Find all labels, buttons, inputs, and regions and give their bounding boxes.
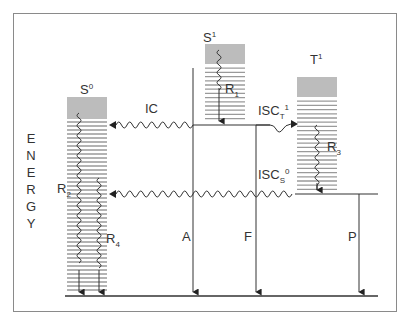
s0-levels xyxy=(67,98,107,290)
label-A: A xyxy=(182,230,191,243)
energy-axis-label: E N E R G Y xyxy=(24,130,38,232)
label-R4: R4 xyxy=(106,232,120,251)
label-F: F xyxy=(244,230,252,243)
energy-letter: E xyxy=(24,164,38,181)
state-label-S1: S1 xyxy=(203,28,216,44)
state-label-S0: S0 xyxy=(80,80,93,96)
label-P: P xyxy=(348,230,357,243)
label-R1: R1 xyxy=(225,82,239,101)
internal-conversion-IC-wave xyxy=(116,122,193,128)
energy-letter: G xyxy=(24,198,38,215)
isc-S-wave xyxy=(116,191,292,197)
label-ISC-T: ISCT1 xyxy=(258,101,289,123)
isc-T-wave xyxy=(256,124,291,132)
label-R2: R2 xyxy=(57,182,71,201)
energy-letter: R xyxy=(24,181,38,198)
energy-letter: N xyxy=(24,147,38,164)
jablonski-diagram xyxy=(0,0,409,323)
isc-S-arrowhead xyxy=(109,190,116,198)
energy-letter: Y xyxy=(24,215,38,232)
label-R3: R3 xyxy=(327,140,341,159)
relaxation-R1-wave xyxy=(217,50,221,90)
t1-levels xyxy=(297,78,337,189)
isc-T-arrowhead xyxy=(291,120,298,128)
label-IC: IC xyxy=(145,102,158,115)
label-ISC-S: ISCS0 xyxy=(258,165,289,187)
state-label-T1: T1 xyxy=(310,50,322,66)
energy-letter: E xyxy=(24,130,38,147)
ic-arrowhead xyxy=(109,121,116,129)
relaxation-R2-wave xyxy=(77,113,81,263)
